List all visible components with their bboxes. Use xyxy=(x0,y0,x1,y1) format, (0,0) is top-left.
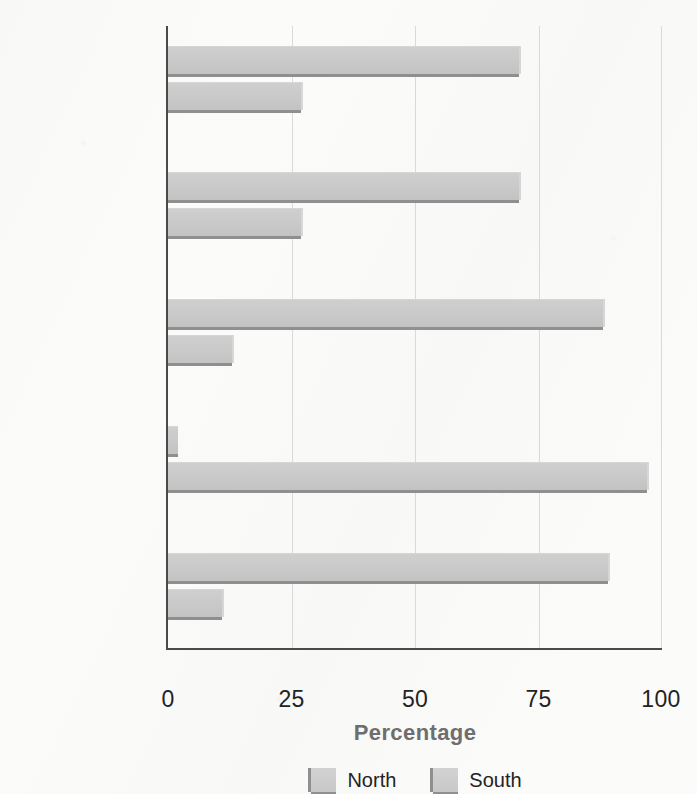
legend-item-north[interactable]: North xyxy=(308,768,396,792)
x-axis-title: Percentage xyxy=(168,720,662,746)
bar-industrial-establishments-north[interactable] xyxy=(168,299,603,327)
bar-population-north[interactable] xyxy=(168,46,519,74)
x-axis-line xyxy=(166,648,662,650)
x-tick-label-50: 50 xyxy=(402,686,428,713)
legend-label-north: North xyxy=(347,769,396,792)
bar-chart-figure: Population Railroad miles Industrial est… xyxy=(0,0,697,794)
bar-cotton-bales-north[interactable] xyxy=(168,426,178,454)
x-tick-label-100: 100 xyxy=(641,686,680,713)
legend-swatch-north-icon xyxy=(311,768,336,792)
bar-industrial-establishments-south[interactable] xyxy=(168,335,232,363)
legend-label-south: South xyxy=(469,769,521,792)
bar-cotton-bales-south[interactable] xyxy=(168,462,647,490)
plot-area: 0 25 50 75 100 Percentage North South xyxy=(168,26,662,648)
x-tick-label-0: 0 xyxy=(161,686,174,713)
chart-legend: North South xyxy=(168,768,662,792)
x-tick-label-25: 25 xyxy=(278,686,304,713)
bar-railroad-miles-south[interactable] xyxy=(168,208,301,236)
bar-exports-south[interactable] xyxy=(168,589,222,617)
x-tick-label-75: 75 xyxy=(525,686,551,713)
bar-exports-north[interactable] xyxy=(168,553,608,581)
bar-railroad-miles-north[interactable] xyxy=(168,172,519,200)
gridline-100 xyxy=(661,26,662,648)
bar-population-south[interactable] xyxy=(168,82,301,110)
legend-item-south[interactable]: South xyxy=(430,768,521,792)
legend-swatch-south-icon xyxy=(433,768,458,792)
